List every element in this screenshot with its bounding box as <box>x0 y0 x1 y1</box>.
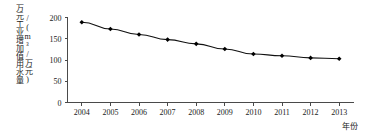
x-tick-label: 2007 <box>160 108 176 117</box>
line-chart-figure: 050100150200 200420052006200720082009201… <box>0 0 366 137</box>
y-axis-title: 万元工业增加值用水量 /(m³/万元) <box>14 4 31 108</box>
data-point-marker <box>80 20 85 25</box>
y-tick-label: 150 <box>50 35 62 44</box>
x-tick-label: 2004 <box>74 108 90 117</box>
y-tick-label: 0 <box>58 99 62 108</box>
x-axis-title: 年份 <box>342 120 358 131</box>
chart-plot-area: 050100150200 200420052006200720082009201… <box>0 0 366 137</box>
y-tick-label: 50 <box>54 77 62 86</box>
data-point-marker <box>108 27 113 32</box>
data-point-marker <box>308 56 313 61</box>
x-tick-label: 2008 <box>188 108 204 117</box>
x-tick-label: 2012 <box>303 108 319 117</box>
y-axis-tick-labels: 050100150200 <box>50 14 62 108</box>
x-tick-label: 2009 <box>217 108 233 117</box>
x-tick-label: 2005 <box>102 108 118 117</box>
x-tick-label: 2013 <box>331 108 347 117</box>
x-tick-label: 2010 <box>245 108 261 117</box>
x-axis-tick-labels: 2004200520062007200820092010201120122013 <box>74 108 347 117</box>
y-tick-label: 200 <box>50 14 62 23</box>
y-axis-unit-text: /(m³/万元) <box>23 4 31 84</box>
y-axis-title-text: 万元工业增加值用水量 <box>14 4 22 84</box>
x-tick-label: 2006 <box>131 108 147 117</box>
data-series-line <box>82 22 339 59</box>
data-point-markers <box>80 20 342 61</box>
data-point-marker <box>194 42 199 47</box>
data-point-marker <box>251 52 256 57</box>
y-tick-label: 100 <box>50 56 62 65</box>
data-point-marker <box>337 56 342 61</box>
data-point-marker <box>280 53 285 58</box>
data-point-marker <box>165 37 170 42</box>
x-tick-label: 2011 <box>274 108 290 117</box>
data-point-marker <box>137 32 142 37</box>
data-point-marker <box>223 47 228 52</box>
